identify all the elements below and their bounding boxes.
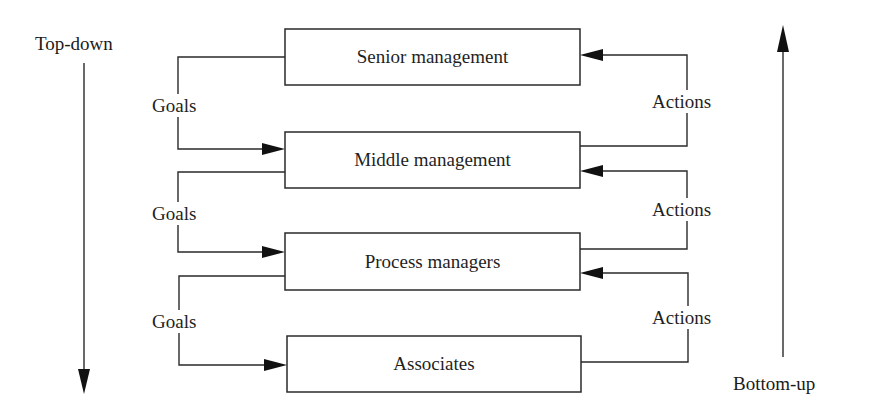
bottom-up-label: Bottom-up [733, 373, 815, 395]
arrow-right-icon [262, 246, 285, 258]
arrow-left-icon [580, 165, 603, 177]
actions-label-1: Actions [652, 90, 711, 113]
bottom-up-arrow [777, 25, 789, 357]
top-down-arrow [78, 63, 90, 394]
senior-management-label: Senior management [286, 30, 579, 84]
process-managers-label: Process managers [286, 234, 579, 289]
arrow-right-icon [264, 359, 287, 371]
middle-management-label: Middle management [286, 133, 579, 187]
associates-label: Associates [288, 337, 580, 391]
arrow-up-icon [777, 25, 789, 52]
arrow-left-icon [580, 49, 603, 61]
arrow-left-icon [580, 267, 603, 279]
top-down-label: Top-down [35, 33, 113, 55]
actions-label-2: Actions [652, 198, 711, 221]
actions-label-3: Actions [652, 306, 711, 329]
goals-label-2: Goals [152, 202, 196, 225]
goals-label-1: Goals [152, 94, 196, 117]
arrow-right-icon [262, 143, 285, 155]
arrow-down-icon [78, 369, 90, 394]
goals-label-3: Goals [152, 310, 196, 333]
